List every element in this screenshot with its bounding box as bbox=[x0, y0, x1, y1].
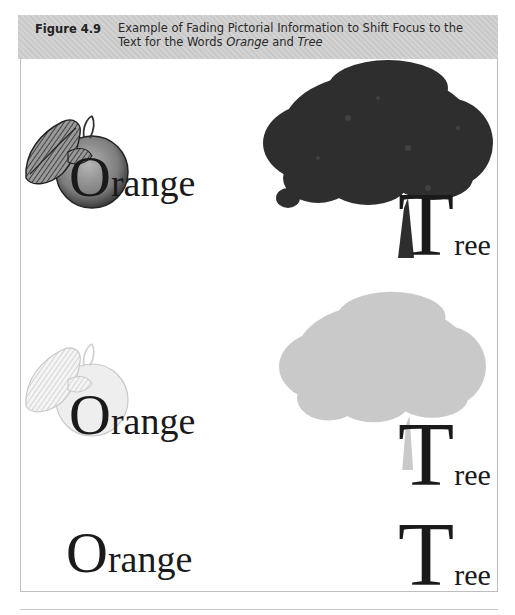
letter-t: T bbox=[398, 503, 454, 605]
letter-o: O bbox=[69, 382, 111, 447]
figure-label: Figure 4.9 bbox=[35, 22, 101, 36]
caption-emphasis-tree: Tree bbox=[298, 35, 323, 49]
caption-emphasis-orange: Orange bbox=[226, 35, 269, 49]
word-tree-row3: Tree bbox=[398, 508, 491, 600]
word-rest: range bbox=[108, 538, 192, 580]
word-orange-row1: Orange bbox=[69, 148, 195, 206]
figure-header: Figure 4.9 Example of Fading Pictorial I… bbox=[18, 15, 498, 59]
word-orange-row3: Orange bbox=[66, 524, 192, 582]
footer-rule bbox=[20, 609, 498, 610]
word-rest: range bbox=[111, 162, 195, 204]
letter-o: O bbox=[69, 144, 111, 209]
word-tree-row2: Tree bbox=[398, 408, 491, 500]
figure-caption: Example of Fading Pictorial Information … bbox=[118, 21, 488, 49]
caption-text-and: and bbox=[269, 35, 298, 49]
word-tree-row1: Tree bbox=[398, 178, 491, 270]
letter-o: O bbox=[66, 520, 108, 585]
word-rest: ree bbox=[454, 558, 491, 591]
word-rest: ree bbox=[454, 228, 491, 261]
word-orange-row2: Orange bbox=[69, 386, 195, 444]
word-rest: ree bbox=[454, 458, 491, 491]
letter-t: T bbox=[398, 403, 454, 505]
letter-t: T bbox=[398, 173, 454, 275]
word-rest: range bbox=[111, 400, 195, 442]
